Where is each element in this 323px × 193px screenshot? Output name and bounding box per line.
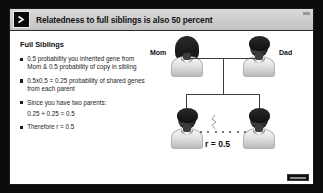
sibling-drop-line-right <box>259 94 260 108</box>
slide-corner-marker <box>303 12 310 15</box>
square-bullet-icon <box>20 58 23 61</box>
bullet-list-heading: Full Siblings <box>20 40 148 49</box>
list-item-label: 0.5 probability you inherited gene from … <box>27 55 148 72</box>
sibling-drop-line-left <box>186 94 187 108</box>
list-item: 0.5x0.5 = 0.25 probability of shared gen… <box>20 77 148 94</box>
page-title: Relatedness to full siblings is also 50 … <box>36 15 212 25</box>
neck-shape <box>255 125 263 132</box>
slide-body: Full Siblings 0.5 probability you inheri… <box>10 31 313 184</box>
list-item: Since you have two parents: <box>20 99 148 107</box>
dad-label: Dad <box>279 49 292 56</box>
square-bullet-icon <box>20 79 23 82</box>
watermark-badge <box>287 174 309 181</box>
sibship-bar <box>186 94 260 95</box>
list-item-label: Since you have two parents: <box>27 99 106 107</box>
mother-figure <box>170 37 204 77</box>
list-item: Therefore r = 0.5 <box>20 123 148 131</box>
neck-shape <box>183 125 191 132</box>
list-item-sub-label: 0.25 + 0.25 = 0.5 <box>27 110 148 118</box>
square-bullet-icon <box>20 126 23 129</box>
descent-line <box>223 58 224 94</box>
sibling-figure-left <box>170 109 204 149</box>
father-figure <box>242 37 276 77</box>
play-chevron-icon <box>13 11 30 28</box>
square-bullet-icon <box>20 101 23 104</box>
list-item: 0.5 probability you inherited gene from … <box>20 55 148 72</box>
relatedness-dotted-line <box>200 131 246 133</box>
hair-shape <box>249 108 270 123</box>
slide-frame: Relatedness to full siblings is also 50 … <box>0 0 323 193</box>
mom-label: Mom <box>150 49 166 56</box>
bullet-list: Full Siblings 0.5 probability you inheri… <box>20 40 148 137</box>
slide-title-bar: Relatedness to full siblings is also 50 … <box>10 9 313 31</box>
hair-shape <box>177 108 198 123</box>
list-item-label: 0.5x0.5 = 0.25 probability of shared gen… <box>27 77 148 94</box>
relatedness-value-label: r = 0.5 <box>205 139 230 149</box>
gene-squiggle-icon <box>208 115 222 131</box>
list-item-label: Therefore r = 0.5 <box>27 123 74 131</box>
pedigree-diagram: Mom Dad <box>148 31 313 184</box>
slide-canvas: Relatedness to full siblings is also 50 … <box>9 8 314 185</box>
sibling-figure-right <box>242 109 276 149</box>
hair-shape <box>249 36 270 51</box>
